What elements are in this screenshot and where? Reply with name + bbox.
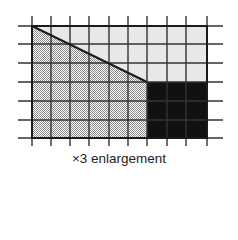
figure-caption: ×3 enlargement (0, 151, 238, 166)
dark-region (147, 82, 207, 138)
